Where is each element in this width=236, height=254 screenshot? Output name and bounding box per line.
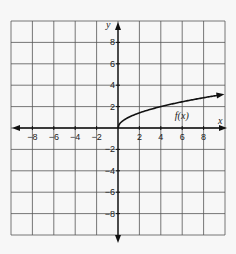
x-tick-label: −6 — [49, 132, 59, 142]
x-tick-label: 4 — [158, 132, 163, 142]
x-tick-label: 6 — [180, 132, 185, 142]
f-of-x-curve — [118, 95, 221, 128]
y-tick-label: −2 — [105, 144, 115, 154]
y-tick-label: −8 — [105, 209, 115, 219]
function-label: f(x) — [175, 110, 190, 122]
y-tick-label: 4 — [110, 80, 115, 90]
x-tick-label: −8 — [27, 132, 37, 142]
y-tick-label: 6 — [110, 59, 115, 69]
x-axis-left-arrow-icon — [12, 125, 20, 131]
axes: x y — [12, 19, 227, 243]
y-tick-label: −6 — [105, 187, 115, 197]
y-tick-label: −4 — [105, 166, 115, 176]
function-curve — [118, 93, 224, 128]
curve-arrow-icon — [216, 93, 224, 99]
y-tick-label: 2 — [110, 102, 115, 112]
y-tick-label: 8 — [110, 37, 115, 47]
x-axis-label: x — [217, 115, 223, 126]
y-axis-down-arrow-icon — [115, 235, 121, 243]
y-axis-up-arrow-icon — [115, 22, 121, 30]
x-tick-label: −4 — [70, 132, 80, 142]
coordinate-plane: x y −8−6−4−224688642−2−4−6−8 f(x) — [0, 0, 236, 254]
x-tick-label: −2 — [91, 132, 101, 142]
x-tick-label: 8 — [201, 132, 206, 142]
y-axis-label: y — [105, 19, 111, 30]
x-tick-label: 2 — [137, 132, 142, 142]
